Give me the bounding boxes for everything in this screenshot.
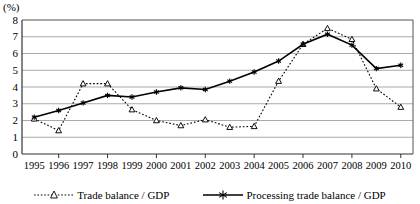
data-point bbox=[227, 124, 233, 129]
gridlines bbox=[22, 20, 413, 137]
legend-item-processing-trade-balance: Processing trade balance / GDP bbox=[203, 189, 385, 201]
data-point bbox=[325, 25, 331, 30]
x-axis-ticks bbox=[59, 154, 401, 158]
chart-container: (%) 012345678 19951996199719981999200020… bbox=[0, 0, 420, 204]
legend-item-trade-balance: Trade balance / GDP bbox=[34, 189, 169, 201]
data-point bbox=[202, 117, 208, 122]
star-icon bbox=[203, 189, 243, 201]
data-point bbox=[80, 81, 86, 86]
data-point bbox=[373, 86, 379, 91]
legend-label-processing-trade-balance: Processing trade balance / GDP bbox=[246, 189, 385, 201]
series-processing-trade-balance bbox=[32, 32, 403, 120]
plot-area bbox=[0, 0, 420, 204]
legend-label-trade-balance: Trade balance / GDP bbox=[77, 189, 169, 201]
data-point bbox=[251, 123, 257, 128]
data-point bbox=[56, 128, 62, 133]
data-series-layer bbox=[31, 25, 403, 132]
series-trade-balance bbox=[31, 25, 403, 132]
chart-legend: Trade balance / GDP Processing trade bal… bbox=[0, 189, 420, 201]
triangle-open-icon bbox=[34, 189, 74, 201]
data-point bbox=[178, 123, 184, 128]
